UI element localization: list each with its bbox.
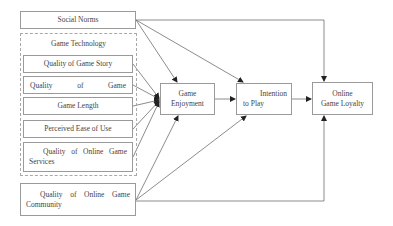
node-label-line1: Online xyxy=(332,89,352,99)
arrow-community-to-intention xyxy=(136,116,246,200)
node-quality-online-services: Quality of Online Game Services xyxy=(23,142,133,172)
arrow-social-to-intention xyxy=(136,20,243,82)
node-label: Game Length xyxy=(57,101,98,111)
node-label-line2: Game Loyalty xyxy=(321,99,364,109)
node-label: Perceived Ease of Use xyxy=(44,124,111,134)
node-label: Social Norms xyxy=(57,15,98,25)
arrow-social-to-enjoyment xyxy=(136,20,177,82)
node-label: Quality of Game xyxy=(24,81,132,91)
group-title: Game Technology xyxy=(21,39,136,48)
arrow-social-to-loyalty xyxy=(136,20,324,81)
arrow-community-to-loyalty xyxy=(136,116,324,201)
node-label: Quality of Game Story xyxy=(44,59,113,69)
arrow-community-to-enjoyment xyxy=(136,116,178,200)
node-label: Quality of Online Game Services xyxy=(24,143,132,167)
node-quality-game-story: Quality of Game Story xyxy=(23,55,133,73)
node-online-game-loyalty: Online Game Loyalty xyxy=(312,82,373,115)
node-label-line2: to Play xyxy=(243,99,287,109)
node-quality-game: Quality of Game xyxy=(23,76,133,94)
node-quality-online-community: Quality of Online Game Community xyxy=(20,183,136,216)
node-intention-to-play: Intention to Play xyxy=(236,83,292,115)
node-perceived-ease-of-use: Perceived Ease of Use xyxy=(23,120,133,138)
node-label-line1: Intention xyxy=(243,89,287,99)
node-label-line1: Game xyxy=(179,89,197,99)
node-game-length: Game Length xyxy=(23,97,133,115)
node-game-enjoyment: Game Enjoyment xyxy=(160,83,215,115)
node-label: Quality of Online Game Community xyxy=(21,184,135,210)
node-social-norms: Social Norms xyxy=(20,11,136,29)
node-label-line2: Enjoyment xyxy=(171,99,204,109)
